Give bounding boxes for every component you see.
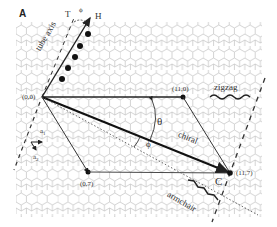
atom-dot bbox=[72, 54, 78, 60]
c-label: C bbox=[215, 176, 222, 187]
atom-dot bbox=[77, 43, 83, 49]
t-label: T bbox=[65, 10, 71, 19]
theta-label: θ bbox=[157, 116, 162, 127]
a1-label: a1 bbox=[40, 128, 46, 136]
point-0-7-label: (0,7) bbox=[80, 181, 93, 188]
graphene-lattice bbox=[16, 22, 262, 217]
point-11-7 bbox=[227, 170, 233, 176]
a2-label: a2 bbox=[33, 154, 39, 162]
h-label: H bbox=[95, 12, 102, 21]
atom-dot bbox=[59, 76, 65, 82]
zigzag-label: zigzag bbox=[214, 83, 237, 92]
atom-dot bbox=[65, 65, 71, 71]
chirality-diagram: A T ϕ H tube axis (0,0) (11,0) zigzag θ … bbox=[0, 0, 277, 227]
phi-arc-top bbox=[74, 20, 86, 22]
atom-dot bbox=[85, 31, 91, 37]
phi-label: ϕ bbox=[146, 140, 151, 149]
point-11-0-label: (11,0) bbox=[172, 86, 189, 93]
origin-label: (0,0) bbox=[22, 94, 35, 101]
panel-label: A bbox=[19, 9, 26, 19]
point-11-7-label: (11,7) bbox=[236, 170, 253, 177]
phi-top-label: ϕ bbox=[79, 7, 83, 14]
